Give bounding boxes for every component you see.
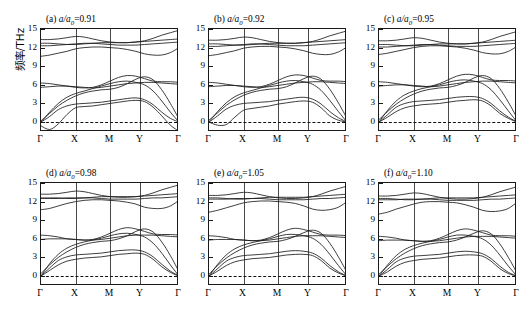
panel-param-value-f: =1.10: [411, 168, 433, 178]
y-tick-label-0-b: 0: [187, 116, 205, 126]
band-curves-c: [379, 29, 516, 131]
band-curves-b: [209, 29, 346, 131]
x-tick-label-3-f: Y: [474, 287, 481, 298]
y-tick-label-15-d: 15: [19, 177, 37, 187]
band-O4-e: [209, 201, 346, 212]
x-tick-label-3-d: Y: [136, 287, 143, 298]
x-tick-label-2-d: M: [105, 287, 114, 298]
y-tick-label-12-d: 12: [19, 196, 37, 206]
band-TA2-a: [41, 98, 178, 122]
x-tick-label-1-c: X: [409, 133, 416, 144]
panel-title-d: (d) a/a0=0.98: [46, 168, 96, 180]
band-O4-d: [41, 200, 178, 210]
band-O4-a: [41, 47, 178, 56]
y-tickmark-0-e: [209, 276, 213, 277]
plot-area-c: [378, 28, 516, 131]
panel-title-f: (f) a/a0=1.10: [384, 168, 433, 180]
panel-title-b: (b) a/a0=0.92: [214, 14, 264, 26]
band-curves-e: [209, 183, 346, 285]
y-tickmark-6-c: [379, 85, 383, 86]
x-tick-label-3-c: Y: [474, 133, 481, 144]
y-tick-label-6-e: 6: [187, 233, 205, 243]
y-tick-label-3-a: 3: [19, 97, 37, 107]
y-tick-label-9-b: 9: [187, 60, 205, 70]
y-tick-label-15-b: 15: [187, 23, 205, 33]
panel-param-name-d: a/a0: [59, 168, 74, 178]
band-TA2-e: [209, 251, 346, 276]
y-tickmark-9-c: [379, 66, 383, 67]
band-TA2-f: [379, 251, 516, 276]
y-tick-label-15-f: 15: [357, 177, 375, 187]
y-tickmark-12-f: [379, 202, 383, 203]
y-tick-label-0-d: 0: [19, 270, 37, 280]
y-tick-label-3-d: 3: [19, 251, 37, 261]
y-tickmark-15-e: [209, 183, 213, 184]
band-curves-f: [379, 183, 516, 285]
x-tick-label-2-b: M: [273, 133, 282, 144]
panel-param-name-a: a/a0: [59, 14, 74, 24]
y-tickmark-3-b: [209, 103, 213, 104]
band-TA1-b: [209, 101, 346, 126]
y-tick-label-9-c: 9: [357, 60, 375, 70]
x-tick-label-2-a: M: [105, 133, 114, 144]
phonon-dispersion-figure: 频率/THz (a) a/a0=0.9103691215ΓXMYΓ(b) a/a…: [0, 0, 532, 309]
y-tickmark-0-d: [41, 276, 45, 277]
x-tick-label-2-c: M: [443, 133, 452, 144]
panel-param-value-d: =0.98: [75, 168, 97, 178]
panel-param-value-c: =0.95: [412, 14, 434, 24]
band-O4-b: [209, 46, 346, 55]
panel-param-name-b: a/a0: [227, 14, 242, 24]
y-tick-label-0-f: 0: [357, 270, 375, 280]
x-tick-label-0-a: Γ: [37, 133, 43, 144]
panel-letter-f: (f): [384, 168, 393, 178]
y-tickmark-6-d: [41, 239, 45, 240]
y-tickmark-6-e: [209, 239, 213, 240]
y-tick-label-12-b: 12: [187, 42, 205, 52]
y-tick-label-12-c: 12: [357, 42, 375, 52]
y-tick-label-6-d: 6: [19, 233, 37, 243]
band-TA2-b: [209, 97, 346, 122]
x-tick-label-4-d: Γ: [175, 287, 181, 298]
y-tickmark-12-a: [41, 48, 45, 49]
x-tick-label-4-a: Γ: [175, 133, 181, 144]
panel-title-a: (a) a/a0=0.91: [46, 14, 96, 26]
x-tick-label-3-e: Y: [304, 287, 311, 298]
y-tick-label-3-c: 3: [357, 97, 375, 107]
plot-area-b: [208, 28, 346, 131]
y-tick-label-0-a: 0: [19, 116, 37, 126]
y-tick-label-9-d: 9: [19, 214, 37, 224]
y-tick-label-9-e: 9: [187, 214, 205, 224]
x-tick-label-1-b: X: [239, 133, 246, 144]
x-tick-label-2-e: M: [273, 287, 282, 298]
x-tick-label-1-f: X: [409, 287, 416, 298]
x-tick-label-4-e: Γ: [343, 287, 349, 298]
y-tick-label-3-b: 3: [187, 97, 205, 107]
x-tick-label-1-e: X: [239, 287, 246, 298]
y-tickmark-9-a: [41, 66, 45, 67]
y-tick-label-12-a: 12: [19, 42, 37, 52]
x-tick-label-0-f: Γ: [375, 287, 381, 298]
band-LA-e: [209, 234, 346, 276]
y-tick-label-12-f: 12: [357, 196, 375, 206]
y-tick-label-15-c: 15: [357, 23, 375, 33]
y-tickmark-12-c: [379, 48, 383, 49]
y-tickmark-12-b: [209, 48, 213, 49]
x-tick-label-2-f: M: [443, 287, 452, 298]
band-LA-f: [379, 235, 516, 276]
x-tick-label-4-f: Γ: [513, 287, 519, 298]
y-tick-label-15-e: 15: [187, 177, 205, 187]
panel-param-value-e: =1.05: [242, 168, 264, 178]
band-O4-f: [379, 202, 516, 214]
y-tick-label-0-e: 0: [187, 270, 205, 280]
y-tickmark-15-f: [379, 183, 383, 184]
y-tickmark-3-a: [41, 103, 45, 104]
x-tick-label-0-d: Γ: [37, 287, 43, 298]
panel-param-value-b: =0.92: [243, 14, 265, 24]
y-tickmark-3-c: [379, 103, 383, 104]
panel-letter-e: (e): [214, 168, 224, 178]
x-tick-label-4-c: Γ: [513, 133, 519, 144]
panel-param-name-e: a/a0: [227, 168, 242, 178]
y-tickmark-3-d: [41, 257, 45, 258]
panel-letter-c: (c): [384, 14, 394, 24]
y-tickmark-6-a: [41, 85, 45, 86]
